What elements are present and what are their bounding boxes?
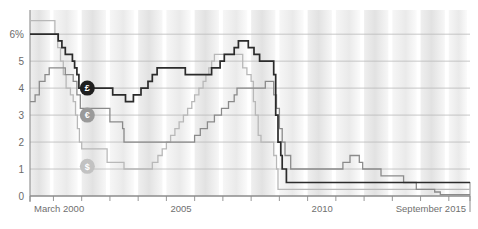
x-axis-labels: March 200020052010September 2015 [34, 203, 466, 214]
y-tick-label: 4 [18, 83, 24, 94]
euro-marker-glyph: € [85, 110, 90, 120]
x-tick-label: 2005 [170, 203, 191, 214]
y-tick-label: 2 [18, 137, 24, 148]
y-tick-label: 5 [18, 56, 24, 67]
interest-rate-chart: 0123456% March 200020052010September 201… [0, 0, 478, 229]
chart-canvas: 0123456% March 200020052010September 201… [0, 0, 478, 229]
y-tick-label: 0 [18, 191, 24, 202]
dollar-marker-glyph: $ [85, 162, 90, 172]
y-tick-label: 3 [18, 110, 24, 121]
year-background-bands [30, 10, 467, 196]
x-tick-label: 2010 [312, 203, 333, 214]
y-axis-labels: 0123456% [10, 29, 25, 202]
pound-marker-glyph: £ [85, 83, 90, 93]
x-tick-label: March 2000 [34, 203, 84, 214]
y-tick-label: 6% [10, 29, 25, 40]
y-tick-label: 1 [18, 164, 24, 175]
x-tick-label: September 2015 [396, 203, 466, 214]
